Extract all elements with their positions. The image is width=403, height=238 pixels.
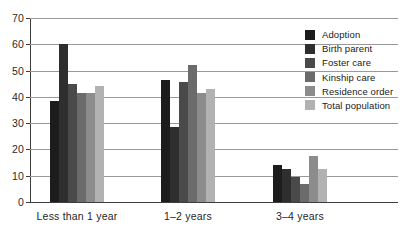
y-tick-mark <box>26 202 30 203</box>
legend-swatch-icon <box>305 72 315 82</box>
bar <box>68 84 77 202</box>
bar <box>273 165 282 202</box>
legend-swatch-icon <box>305 44 315 54</box>
y-tick-mark <box>26 123 30 124</box>
legend-item[interactable]: Residence order <box>305 86 393 97</box>
bar <box>300 184 309 202</box>
chart-legend: AdoptionBirth parentFoster careKinship c… <box>305 29 393 111</box>
bar-group <box>50 18 104 202</box>
bar <box>188 65 197 202</box>
legend-label: Kinship care <box>322 72 375 83</box>
bar-chart: 010203040506070 Less than 1 year1–2 year… <box>0 0 403 238</box>
bar <box>50 101 59 202</box>
y-tick-label: 50 <box>12 65 24 77</box>
y-tick-mark <box>26 97 30 98</box>
y-tick-label: 40 <box>12 91 24 103</box>
legend-swatch-icon <box>305 58 315 68</box>
legend-swatch-icon <box>305 100 315 110</box>
bar <box>95 86 104 202</box>
bar <box>161 80 170 202</box>
legend-item[interactable]: Foster care <box>305 57 393 68</box>
bar <box>170 127 179 202</box>
legend-item[interactable]: Birth parent <box>305 43 393 54</box>
y-tick-label: 0 <box>18 196 24 208</box>
x-axis-line <box>30 202 398 203</box>
bar <box>197 93 206 202</box>
bar <box>86 93 95 202</box>
x-axis-category-label: 3–4 years <box>200 210 400 222</box>
y-tick-mark <box>26 176 30 177</box>
legend-label: Adoption <box>322 29 360 40</box>
bar <box>291 177 300 202</box>
y-tick-label: 10 <box>12 170 24 182</box>
y-tick-label: 60 <box>12 38 24 50</box>
bar <box>282 169 291 202</box>
y-tick-label: 30 <box>12 117 24 129</box>
y-tick-mark <box>26 71 30 72</box>
bar <box>179 82 188 202</box>
bar <box>309 156 318 202</box>
bar <box>318 169 327 202</box>
legend-item[interactable]: Adoption <box>305 29 393 40</box>
y-tick-label: 20 <box>12 143 24 155</box>
legend-label: Total population <box>322 100 390 111</box>
y-tick-mark <box>26 44 30 45</box>
bar-group <box>161 18 215 202</box>
bar <box>77 93 86 202</box>
bar <box>59 44 68 202</box>
y-tick-label: 70 <box>12 12 24 24</box>
legend-swatch-icon <box>305 30 315 40</box>
legend-item[interactable]: Kinship care <box>305 72 393 83</box>
bar <box>206 89 215 202</box>
legend-label: Residence order <box>322 86 393 97</box>
y-tick-mark <box>26 149 30 150</box>
y-tick-mark <box>26 18 30 19</box>
legend-label: Birth parent <box>322 43 372 54</box>
legend-label: Foster care <box>322 57 371 68</box>
legend-item[interactable]: Total population <box>305 100 393 111</box>
legend-swatch-icon <box>305 86 315 96</box>
